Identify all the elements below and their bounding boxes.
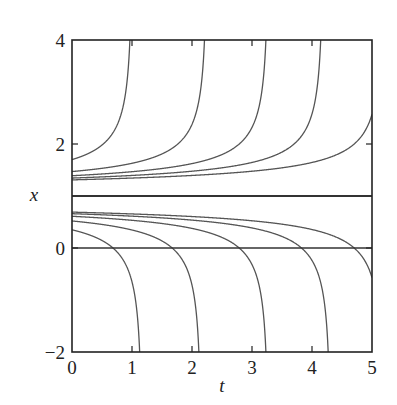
y-tick-label: −2 <box>45 342 65 363</box>
x-tick-label: 2 <box>187 357 197 378</box>
solution-curves <box>72 0 372 390</box>
y-axis-label: x <box>29 184 39 205</box>
y-tick-label: 2 <box>56 134 66 155</box>
lower-solution-curve <box>72 216 267 383</box>
equilibrium-lines <box>72 196 372 248</box>
x-tick-label: 1 <box>127 357 137 378</box>
x-tick-label: 0 <box>67 357 77 378</box>
x-axis-label: t <box>219 375 225 396</box>
y-tick-labels: −2024 <box>45 30 66 363</box>
y-tick-label: 0 <box>56 238 66 259</box>
x-tick-label: 5 <box>367 357 377 378</box>
upper-solution-curve <box>72 7 206 172</box>
upper-solution-curve <box>72 10 131 159</box>
lower-solution-curve <box>72 212 372 278</box>
y-tick-label: 4 <box>56 30 66 51</box>
x-tick-label: 4 <box>307 357 317 378</box>
lower-solution-curve <box>72 214 329 390</box>
x-tick-label: 3 <box>247 357 257 378</box>
phase-chart: 012345 −2024 t x <box>0 0 397 405</box>
upper-solution-curve <box>72 0 322 178</box>
